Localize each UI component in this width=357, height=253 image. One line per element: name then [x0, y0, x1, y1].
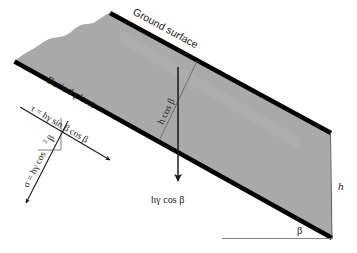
label-vertical-stress: hγ cos β [151, 194, 184, 205]
infinite-slope-diagram: Ground surface Buried plane τ = hγ sin β… [0, 0, 357, 253]
shear-stress-arrow [20, 107, 110, 160]
label-depth: h [338, 180, 344, 192]
figure-canvas: Ground surface Buried plane τ = hγ sin β… [0, 0, 357, 253]
label-slope-angle: β [297, 225, 302, 236]
